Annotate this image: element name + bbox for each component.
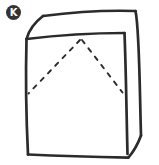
box-front-bottom-edge [28, 155, 128, 158]
illustration-panel: K [0, 0, 159, 165]
hidden-fold-line-right [82, 40, 123, 93]
hidden-fold-line-left [29, 40, 81, 94]
box-front-left-edge [26, 39, 28, 155]
box-bottom-right-slant-edge [129, 136, 142, 158]
box-top-left-slant-edge [27, 16, 44, 39]
box-front-top-edge [27, 33, 125, 39]
box-illustration [0, 0, 159, 165]
box-front-right-edge [125, 33, 128, 154]
box-back-top-edge [43, 11, 136, 16]
box-back-right-edge [136, 11, 142, 136]
